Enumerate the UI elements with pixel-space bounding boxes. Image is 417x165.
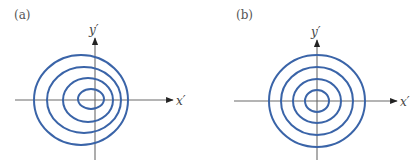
y-axis-label: y′ [88,23,99,37]
contour-ellipse-4 [78,89,104,109]
panel-b: (b) x′ y′ [234,8,410,160]
panel-a-label: (a) [14,8,31,22]
y-axis-label: y′ [310,25,321,39]
figure-canvas: (a) x′ y′ (b) x′ y′ [0,0,417,165]
x-axis-label: x′ [176,94,186,108]
panel-b-label: (b) [236,8,253,22]
x-axis-label: x′ [400,95,410,109]
panel-a: (a) x′ y′ [14,8,186,160]
